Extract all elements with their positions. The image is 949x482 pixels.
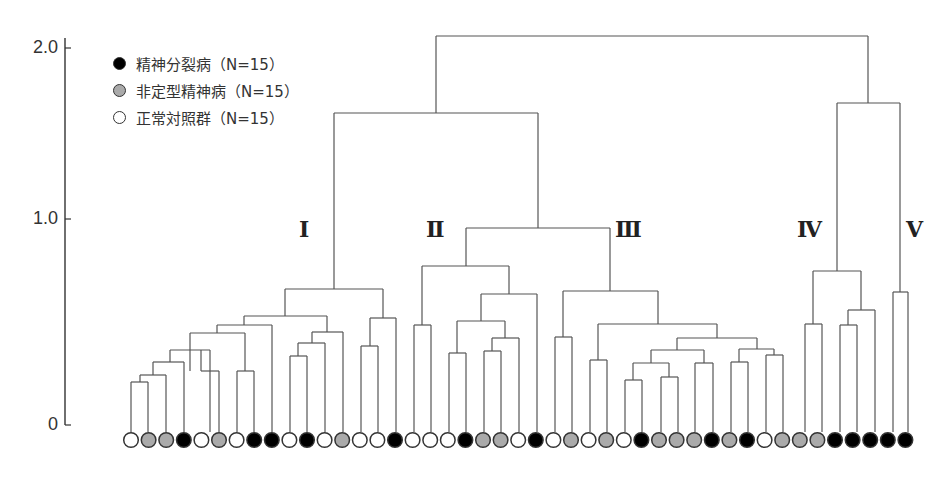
- leaf-marker-A: [722, 433, 737, 448]
- cluster-label: Ⅲ: [615, 216, 642, 243]
- leaf-marker-S: [634, 433, 649, 448]
- leaf-marker-S: [247, 433, 262, 448]
- leaf-marker-S: [177, 433, 192, 448]
- leaf-marker-S: [881, 433, 896, 448]
- white-circle-icon: [113, 111, 126, 124]
- leaf-marker-A: [564, 433, 579, 448]
- leaf-marker-N: [282, 433, 297, 448]
- leaf-marker-N: [757, 433, 772, 448]
- leaf-marker-S: [740, 433, 755, 448]
- leaf-markers: [124, 433, 913, 448]
- leaf-marker-N: [423, 433, 438, 448]
- leaf-marker-S: [845, 433, 860, 448]
- leaf-marker-S: [265, 433, 280, 448]
- leaf-marker-A: [669, 433, 684, 448]
- leaf-marker-A: [493, 433, 508, 448]
- leaf-marker-N: [581, 433, 596, 448]
- leaf-marker-A: [141, 433, 156, 448]
- leaf-marker-N: [546, 433, 561, 448]
- leaf-marker-S: [863, 433, 878, 448]
- leaf-marker-S: [898, 433, 913, 448]
- leaf-marker-N: [229, 433, 244, 448]
- leaf-marker-S: [458, 433, 473, 448]
- leaf-marker-S: [529, 433, 544, 448]
- leaf-marker-A: [599, 433, 614, 448]
- leaf-marker-A: [159, 433, 174, 448]
- leaf-marker-A: [810, 433, 825, 448]
- legend-label: 正常対照群（N=15）: [136, 107, 284, 128]
- leaf-marker-S: [388, 433, 403, 448]
- leaf-marker-A: [775, 433, 790, 448]
- leaf-marker-N: [317, 433, 332, 448]
- cluster-label: Ⅳ: [797, 216, 822, 243]
- leaf-marker-S: [705, 433, 720, 448]
- leaf-marker-N: [370, 433, 385, 448]
- y-tick-label: 0: [8, 414, 58, 435]
- legend-item-atypical-psychosis: 非定型精神病（N=15）: [108, 77, 299, 104]
- cluster-label: Ⅴ: [906, 216, 923, 243]
- legend-item-schizophrenia: 精神分裂病（N=15）: [108, 50, 299, 77]
- leaf-marker-N: [194, 433, 209, 448]
- leaf-marker-N: [353, 433, 368, 448]
- y-tick-label: 1.0: [8, 208, 58, 229]
- legend-label: 精神分裂病（N=15）: [136, 53, 284, 74]
- leaf-marker-N: [441, 433, 456, 448]
- legend-label: 非定型精神病（N=15）: [136, 80, 299, 101]
- leaf-marker-N: [124, 433, 139, 448]
- leaf-marker-S: [828, 433, 843, 448]
- cluster-label: Ⅱ: [426, 216, 445, 243]
- leaf-marker-A: [652, 433, 667, 448]
- leaf-marker-N: [405, 433, 420, 448]
- y-axis: [65, 38, 71, 425]
- leaf-marker-A: [793, 433, 808, 448]
- leaf-marker-A: [212, 433, 227, 448]
- leaf-marker-N: [617, 433, 632, 448]
- leaf-marker-A: [335, 433, 350, 448]
- leaf-marker-A: [687, 433, 702, 448]
- legend-item-normal-control: 正常対照群（N=15）: [108, 104, 299, 131]
- cluster-label: Ⅰ: [299, 216, 309, 243]
- leaf-marker-S: [300, 433, 315, 448]
- leaf-marker-A: [476, 433, 491, 448]
- leaf-marker-N: [511, 433, 526, 448]
- y-tick-label: 2.0: [8, 37, 58, 58]
- gray-circle-icon: [113, 84, 126, 97]
- legend: 精神分裂病（N=15） 非定型精神病（N=15） 正常対照群（N=15）: [108, 50, 299, 131]
- black-circle-icon: [113, 57, 126, 70]
